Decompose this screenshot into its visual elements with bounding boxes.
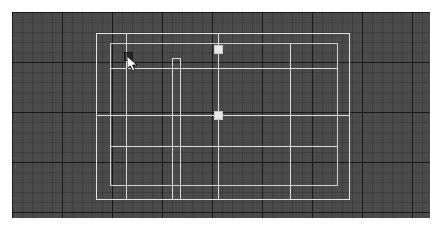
axis-line-v-8	[412, 12, 413, 218]
axis-line-v-7	[362, 12, 363, 218]
door-opening[interactable]	[172, 58, 181, 59]
axis-line-h-0	[12, 12, 430, 13]
application-root	[0, 0, 443, 228]
wall-segment-h-lower[interactable]	[110, 146, 338, 147]
axis-line-v-1	[62, 12, 63, 218]
wall-segment-h-upper[interactable]	[110, 68, 338, 69]
plan-viewport-canvas[interactable]	[12, 12, 430, 218]
axis-line-h-4	[12, 212, 430, 213]
wall-segment-v-right[interactable]	[290, 43, 291, 200]
wall-segment-h-mid[interactable]	[96, 115, 350, 116]
wall-segment-v-door2[interactable]	[180, 58, 181, 200]
axis-line-v-0	[12, 12, 13, 218]
selection-handle-middle[interactable]	[214, 111, 223, 120]
selection-handle-top[interactable]	[214, 45, 223, 54]
wall-segment-v-left[interactable]	[126, 33, 127, 200]
wall-segment-v-door[interactable]	[172, 58, 173, 200]
